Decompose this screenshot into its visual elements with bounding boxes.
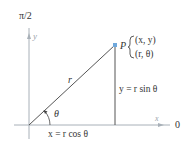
polar-diagram: π/2 y x 0 P (x, y) (r, θ) r θ y = r sin … xyxy=(0,0,189,145)
point-polar-coords: (r, θ) xyxy=(135,49,153,60)
point-p-marker xyxy=(113,43,117,47)
horizontal-axis-arrow-icon xyxy=(158,123,164,127)
angle-label: θ xyxy=(54,108,59,119)
point-p-label: P xyxy=(119,40,126,51)
vertical-axis-arrow-icon xyxy=(27,33,31,39)
x-axis-label: x xyxy=(154,114,159,123)
horizontal-equation: x = r cos θ xyxy=(48,129,88,139)
y-axis-label: y xyxy=(32,31,37,41)
radius-line xyxy=(29,45,115,125)
vertical-equation: y = r sin θ xyxy=(119,84,158,94)
zero-label: 0 xyxy=(175,119,180,130)
point-rect-coords: (x, y) xyxy=(135,35,156,46)
radius-label: r xyxy=(68,74,72,85)
brace-icon xyxy=(128,36,134,58)
pi-over-2-label: π/2 xyxy=(19,10,32,21)
